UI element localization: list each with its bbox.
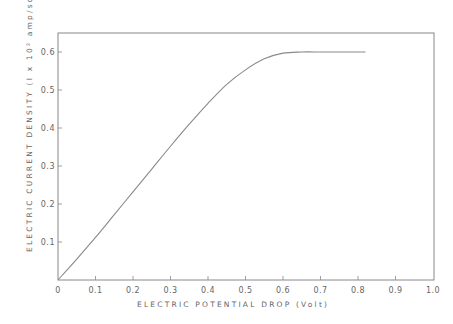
x-tick-label: 0	[55, 286, 61, 295]
y-tick-label: 0.3	[41, 162, 55, 171]
x-tick-label: 0.5	[238, 286, 252, 295]
x-tick-label: 0.7	[313, 286, 327, 295]
y-tick-label: 0.5	[41, 86, 55, 95]
x-tick-label: 0.9	[388, 286, 402, 295]
x-tick-label: 0.1	[88, 286, 102, 295]
data-line	[58, 52, 366, 280]
x-tick-label: 0.2	[126, 286, 140, 295]
line-chart: 00.10.20.30.40.50.60.70.80.91.0 0.10.20.…	[0, 0, 453, 324]
x-tick-label: 1.0	[426, 286, 440, 295]
x-tick-label: 0.8	[351, 286, 365, 295]
y-tick-label: 0.2	[41, 200, 55, 209]
y-tick-label: 0.1	[41, 238, 55, 247]
x-tick-label: 0.3	[163, 286, 177, 295]
x-tick-label: 0.4	[201, 286, 215, 295]
y-axis-title: ELECTRIC CURRENT DENSITY (I x 10² amp/sq…	[25, 0, 34, 252]
y-tick-label: 0.4	[41, 124, 55, 133]
x-axis-ticks: 00.10.20.30.40.50.60.70.80.91.0	[55, 276, 440, 295]
x-tick-label: 0.6	[276, 286, 290, 295]
x-axis-title: ELECTRIC POTENTIAL DROP (Volt)	[137, 300, 329, 309]
y-tick-label: 0.6	[41, 48, 55, 57]
y-axis-ticks: 0.10.20.30.40.50.6	[41, 48, 62, 247]
